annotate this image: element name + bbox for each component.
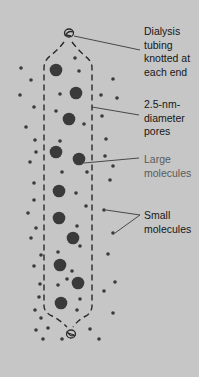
small-molecule <box>97 337 101 341</box>
small-molecule <box>78 297 82 301</box>
small-molecule <box>58 92 62 96</box>
label-large-molecules: Large molecules <box>144 153 191 180</box>
small-molecules-outside <box>18 66 119 341</box>
small-molecule <box>78 244 82 248</box>
small-molecule <box>111 311 115 315</box>
small-molecule <box>56 283 60 287</box>
small-molecule <box>33 308 37 312</box>
label-dialysis-tubing: Dialysis tubing knotted at each end <box>144 25 190 79</box>
small-molecule <box>65 277 69 281</box>
small-molecule <box>60 337 64 341</box>
small-molecule <box>99 93 103 97</box>
small-molecule <box>39 316 43 320</box>
small-molecule <box>73 56 77 60</box>
large-molecule <box>70 87 83 100</box>
small-molecule <box>108 178 112 182</box>
dialysis-tubing-outline <box>44 42 92 327</box>
small-molecule <box>38 282 42 286</box>
small-molecule <box>111 164 115 168</box>
pointer-line-tubing <box>74 36 140 50</box>
small-molecule <box>60 170 64 174</box>
small-molecule <box>103 154 107 158</box>
small-molecule <box>104 137 108 141</box>
small-molecule <box>29 78 33 82</box>
small-molecule <box>84 204 88 208</box>
small-molecule <box>28 160 32 164</box>
large-molecule <box>54 259 67 272</box>
small-molecule <box>58 139 62 143</box>
label-pointer-lines <box>74 36 140 233</box>
large-molecule <box>50 64 63 77</box>
small-molecule <box>70 269 74 273</box>
small-molecule <box>32 198 36 202</box>
small-molecule <box>102 208 106 212</box>
large-molecule <box>53 212 66 225</box>
pointer-line-small-b <box>115 215 140 233</box>
bottom-knot-icon <box>67 330 76 338</box>
large-molecule <box>53 185 66 198</box>
small-molecule <box>54 109 58 113</box>
label-pores: 2.5-nm- diameter pores <box>144 98 185 139</box>
large-molecules <box>50 64 86 310</box>
diagram-canvas: Dialysis tubing knotted at each end 2.5-… <box>0 0 199 377</box>
small-molecule <box>32 264 36 268</box>
small-molecule <box>75 308 79 312</box>
small-molecule <box>34 328 38 332</box>
small-molecule <box>18 93 22 97</box>
small-molecule <box>34 226 38 230</box>
large-molecule <box>63 113 76 126</box>
small-molecule <box>32 105 36 109</box>
large-molecule <box>72 277 85 290</box>
small-molecule <box>29 236 33 240</box>
top-knot-icon <box>65 29 74 37</box>
small-molecule <box>82 122 86 126</box>
small-molecule <box>115 96 119 100</box>
small-molecule <box>33 138 37 142</box>
small-molecule <box>56 250 60 254</box>
small-molecule <box>24 125 28 129</box>
small-molecule <box>74 191 78 195</box>
small-molecule <box>113 280 117 284</box>
small-molecule <box>100 114 104 118</box>
small-molecule <box>19 66 23 70</box>
pointer-line-pores <box>92 107 139 115</box>
small-molecule <box>26 211 30 215</box>
label-small-molecules: Small molecules <box>144 209 191 236</box>
small-molecule <box>41 337 45 341</box>
small-molecule <box>77 69 81 73</box>
small-molecule <box>37 295 41 299</box>
large-molecule <box>67 232 80 245</box>
small-molecule <box>34 150 38 154</box>
large-molecule <box>73 153 86 166</box>
small-molecule <box>39 253 43 257</box>
small-molecule <box>111 77 115 81</box>
small-molecule <box>106 252 110 256</box>
small-molecule <box>32 181 36 185</box>
small-molecule <box>111 231 115 235</box>
small-molecule <box>75 224 79 228</box>
small-molecule <box>88 327 92 331</box>
pointer-line-small-a <box>106 210 140 215</box>
large-molecule <box>55 297 68 310</box>
small-molecule <box>46 326 50 330</box>
small-molecule <box>102 289 106 293</box>
small-molecule <box>85 170 89 174</box>
large-molecule <box>50 146 63 159</box>
